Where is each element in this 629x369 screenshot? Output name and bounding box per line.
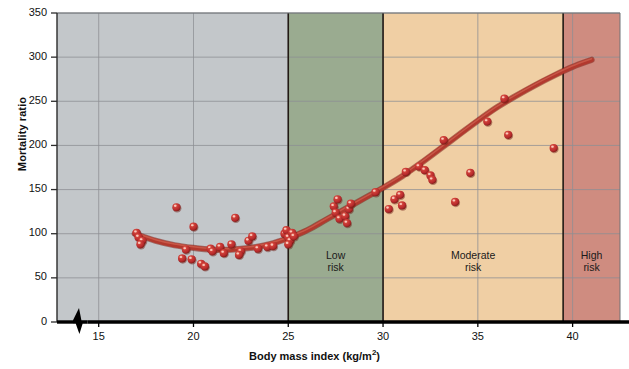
data-point-gloss <box>210 249 213 251</box>
data-point-gloss <box>344 221 347 223</box>
data-point <box>231 214 239 222</box>
data-point-gloss <box>174 205 177 207</box>
data-point <box>208 247 216 255</box>
data-point <box>483 117 491 125</box>
data-point-gloss <box>468 170 471 172</box>
x-axis-title: Body mass index (kg/m2) <box>0 348 629 362</box>
data-point-gloss <box>202 264 205 266</box>
data-point <box>284 240 292 248</box>
data-point-gloss <box>485 119 488 121</box>
data-point-gloss <box>138 242 141 244</box>
x-axis-tick-label: 15 <box>79 330 119 342</box>
data-point <box>178 254 186 262</box>
low-risk-zone-label: Lowrisk <box>288 249 383 273</box>
data-point <box>227 240 235 248</box>
mortality-bmi-chart: Mortality ratio Body mass index (kg/m2) … <box>0 0 629 369</box>
data-point-gloss <box>333 210 336 212</box>
data-point-gloss <box>286 242 289 244</box>
x-axis-tick-label: 35 <box>458 330 498 342</box>
data-point-gloss <box>217 245 220 247</box>
data-point-gloss <box>191 224 194 226</box>
data-point-gloss <box>343 214 346 216</box>
data-point <box>172 203 180 211</box>
zone-label-line2: risk <box>288 261 383 273</box>
data-point <box>500 95 508 103</box>
data-point-gloss <box>428 173 431 175</box>
data-point <box>396 191 404 199</box>
data-point-gloss <box>246 238 249 240</box>
data-point-gloss <box>551 146 554 148</box>
data-point <box>347 200 355 208</box>
high-risk-zone-label: Highrisk <box>563 249 620 273</box>
data-point <box>402 168 410 176</box>
data-point <box>248 232 256 240</box>
data-point-gloss <box>386 207 389 209</box>
data-point <box>189 223 197 231</box>
data-point-gloss <box>189 257 192 259</box>
zone-label-line2: risk <box>383 261 563 273</box>
data-point-gloss <box>286 235 289 237</box>
y-axis-tick-label: 250 <box>5 94 47 106</box>
zone-label-line1: Low <box>288 249 383 261</box>
data-point-gloss <box>337 216 340 218</box>
zone-label-line2: risk <box>563 261 620 273</box>
data-point-gloss <box>399 203 402 205</box>
data-point <box>550 144 558 152</box>
x-axis-tick-label: 40 <box>553 330 593 342</box>
data-point <box>371 188 379 196</box>
data-point-gloss <box>403 169 406 171</box>
data-point <box>428 176 436 184</box>
data-point <box>466 169 474 177</box>
data-point-gloss <box>373 190 376 192</box>
y-axis-tick-label: 350 <box>5 6 47 18</box>
data-point <box>398 201 406 209</box>
data-point-gloss <box>140 238 143 240</box>
moderate-risk-zone-label: Moderaterisk <box>383 249 563 273</box>
data-point-gloss <box>417 164 420 166</box>
data-point <box>136 240 144 248</box>
data-point-gloss <box>229 242 232 244</box>
data-point-gloss <box>430 177 433 179</box>
y-axis-title: Mortality ratio <box>16 74 28 194</box>
data-point-gloss <box>335 197 338 199</box>
data-point <box>440 136 448 144</box>
data-point-gloss <box>288 238 291 240</box>
data-point-gloss <box>199 261 202 263</box>
data-point-gloss <box>250 234 253 236</box>
data-point <box>187 255 195 263</box>
data-point-gloss <box>291 234 294 236</box>
data-point <box>451 198 459 206</box>
data-point <box>333 195 341 203</box>
data-point-gloss <box>183 247 186 249</box>
zone-label-line1: Moderate <box>383 249 563 261</box>
data-point-gloss <box>506 132 509 134</box>
data-point <box>201 262 209 270</box>
x-axis-tick-label: 20 <box>173 330 213 342</box>
data-point <box>504 131 512 139</box>
data-point-gloss <box>453 199 456 201</box>
data-point-gloss <box>271 244 274 246</box>
y-axis-tick-label: 0 <box>5 315 47 327</box>
data-point-gloss <box>134 230 137 232</box>
data-point <box>254 245 262 253</box>
data-point-gloss <box>331 204 334 206</box>
data-point-gloss <box>392 197 395 199</box>
data-point-gloss <box>221 251 224 253</box>
x-axis-title-base: Body mass index (kg/m <box>249 350 372 362</box>
data-point <box>385 205 393 213</box>
data-point-gloss <box>502 96 505 98</box>
y-axis-tick-label: 150 <box>5 182 47 194</box>
data-point <box>343 219 351 227</box>
data-point <box>182 246 190 254</box>
y-axis-tick-label: 200 <box>5 138 47 150</box>
x-axis-tick-label: 25 <box>268 330 308 342</box>
data-point-gloss <box>265 245 268 247</box>
data-point <box>269 242 277 250</box>
y-axis-tick-label: 300 <box>5 50 47 62</box>
data-point-gloss <box>236 252 239 254</box>
zone-label-line1: High <box>563 249 620 261</box>
data-point-gloss <box>136 235 139 237</box>
data-point <box>235 251 243 259</box>
data-point-gloss <box>290 230 293 232</box>
data-point-gloss <box>284 228 287 230</box>
